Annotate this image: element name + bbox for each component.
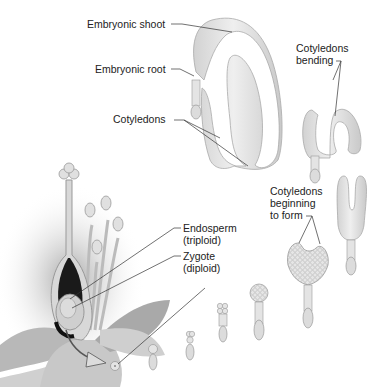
label-embryonic-shoot: Embryonic shoot: [87, 18, 165, 30]
label-zygote-line2: (diploid): [183, 262, 220, 274]
stage-heart: [287, 243, 328, 328]
label-cotyledons-bending-line2: bending: [296, 54, 333, 66]
stage-cotyledons-bending: [303, 109, 361, 183]
label-cotyledons: Cotyledons: [113, 113, 166, 125]
stage-proembryo: [217, 303, 227, 342]
stage-mature: [191, 18, 282, 169]
stage-torpedo: [337, 176, 366, 275]
label-cotyledons-bending-line1: Cotyledons: [296, 42, 349, 54]
stage-two-cell: [149, 345, 158, 371]
label-endosperm-line2: (triploid): [183, 234, 221, 246]
stage-four-cell: [186, 331, 195, 360]
stage-zygote: [111, 362, 120, 371]
label-cotyledons-forming-line3: to form: [270, 209, 303, 221]
label-zygote-line1: Zygote: [183, 250, 215, 262]
label-cotyledons-forming-line2: beginning: [270, 197, 316, 209]
flower-cross-section: [0, 163, 170, 387]
label-cotyledons-forming-line1: Cotyledons: [270, 185, 323, 197]
stage-globular: [250, 284, 268, 340]
embryo-development-diagram: Embryonic shoot Embryonic root Cotyledon…: [0, 0, 388, 387]
label-endosperm-line1: Endosperm: [183, 222, 237, 234]
label-embryonic-root: Embryonic root: [95, 63, 166, 75]
